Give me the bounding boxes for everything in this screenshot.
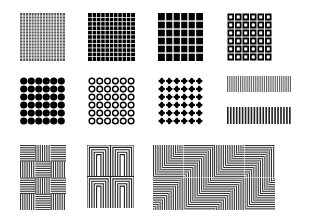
fine-grid-pattern: [20, 13, 65, 61]
fine-vertical-bars: [227, 76, 292, 92]
chevron-maze-pattern: [87, 145, 134, 208]
coarse-vertical-bars: [227, 107, 292, 124]
triangle-line-pattern: [153, 145, 275, 210]
coarse-grid-pattern: [158, 13, 203, 61]
medium-grid-pattern: [88, 13, 135, 61]
ring-dots-pattern: [88, 77, 135, 125]
square-ring-pattern: [227, 13, 272, 61]
basketweave-line-pattern: [20, 145, 66, 210]
cross-dots-pattern: [158, 77, 203, 125]
filled-dots-pattern: [20, 77, 65, 125]
